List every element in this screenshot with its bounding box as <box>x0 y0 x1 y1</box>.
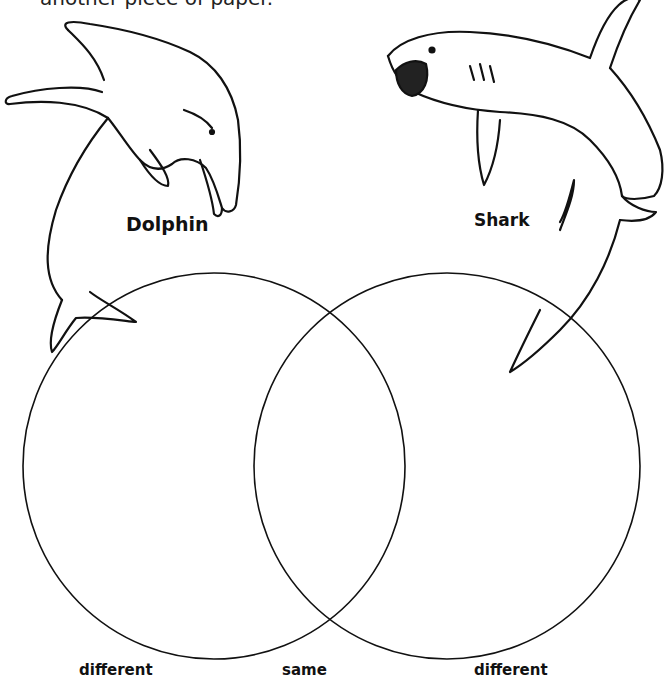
shark-illustration <box>388 0 662 372</box>
left-different-label: different <box>79 661 153 679</box>
right-different-label: different <box>474 661 548 679</box>
left-circle <box>23 273 405 659</box>
same-label: same <box>282 661 327 679</box>
shark-label: Shark <box>474 210 530 230</box>
right-circle <box>254 273 640 659</box>
venn-diagram <box>0 0 667 686</box>
dolphin-label: Dolphin <box>126 213 209 235</box>
dolphin-illustration <box>6 22 240 352</box>
